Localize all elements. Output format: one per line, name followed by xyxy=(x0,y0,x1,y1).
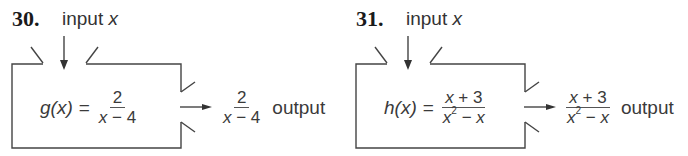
function-machine-diagram xyxy=(344,0,688,156)
problem-number: 30. xyxy=(12,6,40,32)
problem-number: 31. xyxy=(356,6,384,32)
output-funnel-bottom xyxy=(525,122,539,132)
function-argument: (x) xyxy=(395,97,417,119)
input-funnel-left xyxy=(31,47,43,63)
output-label: output xyxy=(621,97,674,119)
fraction-numerator: 2 xyxy=(110,88,125,108)
input-funnel-right xyxy=(86,47,98,63)
input-variable: x xyxy=(452,8,462,29)
output-funnel-bottom xyxy=(181,122,195,132)
output-label: output xyxy=(272,97,325,119)
output-denominator: x2 − x xyxy=(564,108,612,127)
fraction-denominator: x − 4 xyxy=(96,108,139,127)
output-funnel-top xyxy=(525,82,539,92)
function-machine-diagram xyxy=(0,0,344,156)
equals-sign: = xyxy=(79,97,90,119)
function-definition: g(x) = 2 x − 4 xyxy=(40,88,139,127)
input-funnel-right xyxy=(430,47,442,63)
output-numerator: 2 xyxy=(234,88,249,108)
input-label: input x xyxy=(62,8,118,30)
function-argument: (x) xyxy=(51,97,73,119)
problem-31: 31. input x h(x) = x + 3 x2 − x x + 3 x2… xyxy=(344,0,688,156)
output-expression: 2 x − 4 output xyxy=(220,88,325,127)
output-denominator: x − 4 xyxy=(220,108,263,127)
function-name: h xyxy=(384,97,395,119)
function-fraction: x + 3 x2 − x xyxy=(440,88,488,127)
equals-sign: = xyxy=(423,97,434,119)
input-text: input xyxy=(406,8,447,29)
function-fraction: 2 x − 4 xyxy=(96,88,139,127)
output-funnel-top xyxy=(181,82,195,92)
output-numerator: x + 3 xyxy=(566,88,609,108)
output-arrowhead-icon xyxy=(546,104,556,110)
output-fraction: x + 3 x2 − x xyxy=(564,88,612,127)
function-definition: h(x) = x + 3 x2 − x xyxy=(384,88,488,127)
input-funnel-left xyxy=(375,47,387,63)
input-arrowhead-icon xyxy=(404,60,412,70)
function-name: g xyxy=(40,97,51,119)
problem-30: 30. input x g(x) = 2 x − 4 2 x − 4 outpu… xyxy=(0,0,344,156)
fraction-numerator: x + 3 xyxy=(442,88,485,108)
output-expression: x + 3 x2 − x output xyxy=(564,88,674,127)
output-fraction: 2 x − 4 xyxy=(220,88,263,127)
fraction-denominator: x2 − x xyxy=(440,108,488,127)
input-text: input xyxy=(62,8,103,29)
input-arrowhead-icon xyxy=(60,60,68,70)
output-arrowhead-icon xyxy=(202,104,212,110)
input-variable: x xyxy=(108,8,118,29)
input-label: input x xyxy=(406,8,462,30)
